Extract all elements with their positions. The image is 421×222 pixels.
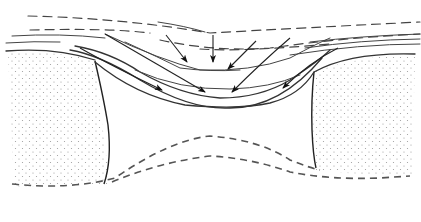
subsidence-diagram [0,0,421,222]
flow-arrows [80,34,338,92]
arrow-icon [166,35,187,62]
arrow-icon [228,41,256,69]
right-pillar [312,55,415,176]
left-pillar [8,52,110,187]
arrow-icon [105,34,205,92]
upper-strata [28,16,420,50]
arrow-icon [232,38,290,92]
sagging-strata [70,34,330,108]
